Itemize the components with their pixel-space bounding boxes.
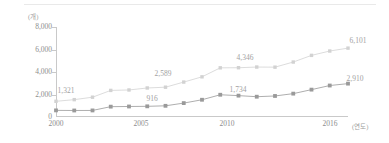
upper-series-point-2004 [127,88,130,91]
series-layer [0,0,389,143]
upper-series-point-2006 [164,86,167,89]
upper-series-point-2007 [182,80,185,83]
data-label-upper-2016: 6,101 [350,36,367,45]
lower-series-point-2014 [310,88,314,92]
data-label-upper-2006: 2,589 [155,69,172,78]
lower-series-point-2005 [145,104,149,108]
lower-series-markers [54,82,350,113]
upper-series-point-2003 [109,89,112,92]
lower-series-point-2008 [200,98,204,102]
upper-series-point-2011 [255,65,258,68]
upper-series-point-2000 [54,100,57,103]
upper-series-point-2013 [292,60,295,63]
lower-series-line [56,84,348,111]
upper-series-point-2005 [146,86,149,89]
lower-series-point-2006 [164,104,168,108]
data-label-lower-2016: 2,910 [347,74,364,83]
lower-series-point-2004 [127,105,131,109]
upper-series-point-2009 [219,66,222,69]
lower-series-point-2013 [291,92,295,96]
upper-series-line [56,48,348,101]
lower-series-point-2012 [273,94,277,98]
upper-series-point-2010 [237,66,240,69]
lower-series-point-2007 [182,101,186,105]
lower-series-point-2011 [255,95,259,99]
upper-series-point-2016 [346,46,349,49]
upper-series-point-2002 [91,96,94,99]
upper-series-point-2008 [200,75,203,78]
lower-series-point-2015 [328,84,332,88]
data-label-lower-2006: 916 [146,94,157,103]
data-label-upper-2000: 1,321 [58,86,75,95]
lower-series-point-2003 [109,105,113,109]
lower-series-point-2010 [237,94,241,98]
data-label-lower-2011: 1,734 [230,85,247,94]
upper-series-point-2014 [310,54,313,57]
line-chart: (개) (연도) 8,000 6,000 4,000 2,000 0 2000 … [0,0,389,143]
lower-series-point-2001 [72,109,76,113]
upper-series-point-2001 [73,98,76,101]
upper-series-point-2015 [328,49,331,52]
lower-series-point-2000 [54,108,58,112]
data-label-upper-2011: 4,346 [237,53,254,62]
lower-series-point-2009 [218,93,222,97]
lower-series-point-2002 [91,109,95,113]
upper-series-point-2012 [273,65,276,68]
